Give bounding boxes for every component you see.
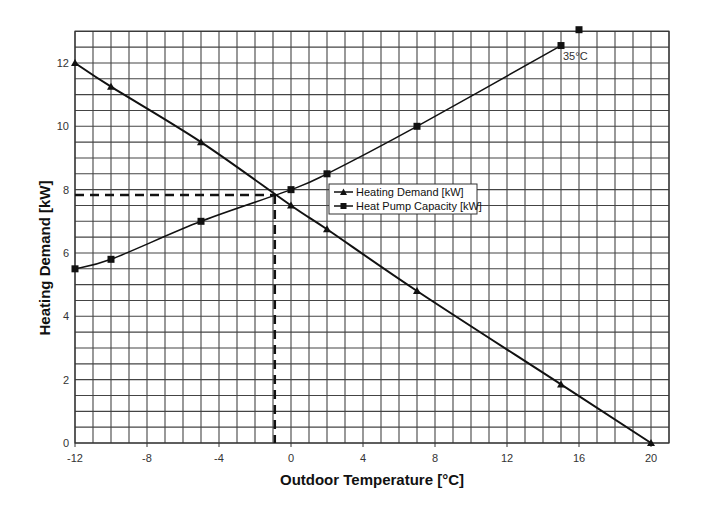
square-marker-icon — [341, 203, 347, 209]
svg-text:12: 12 — [501, 452, 513, 464]
annotation-35c: 35°C — [563, 50, 588, 62]
svg-text:8: 8 — [432, 452, 438, 464]
svg-text:-8: -8 — [142, 452, 152, 464]
svg-text:2: 2 — [63, 374, 69, 386]
svg-text:8: 8 — [63, 184, 69, 196]
svg-text:4: 4 — [360, 452, 366, 464]
chart: -12-8-4048121620024681012 Outdoor Temper… — [0, 0, 702, 517]
svg-text:4: 4 — [63, 310, 69, 322]
svg-text:20: 20 — [645, 452, 657, 464]
legend-label-capacity: Heat Pump Capacity [kW] — [356, 200, 482, 212]
x-axis-title: Outdoor Temperature [°C] — [280, 471, 464, 488]
series-1 — [72, 42, 565, 272]
svg-text:12: 12 — [57, 57, 69, 69]
svg-text:16: 16 — [573, 452, 585, 464]
legend-label-demand: Heating Demand [kW] — [356, 186, 464, 198]
y-axis-title: Heating Demand [kW] — [36, 180, 53, 335]
svg-text:0: 0 — [63, 437, 69, 449]
legend: Heating Demand [kW] Heat Pump Capacity [… — [329, 184, 482, 214]
svg-text:-4: -4 — [214, 452, 224, 464]
svg-text:6: 6 — [63, 247, 69, 259]
svg-text:-12: -12 — [67, 452, 83, 464]
svg-text:0: 0 — [288, 452, 294, 464]
svg-text:10: 10 — [57, 120, 69, 132]
